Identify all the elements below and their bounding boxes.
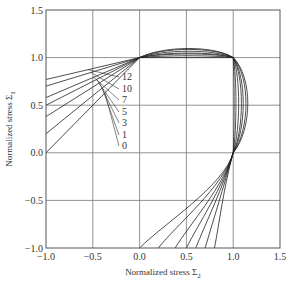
y-tick-label: 0.0 (31, 147, 44, 158)
x-tick-labels: −1.0−0.50.00.51.01.5 (37, 251, 286, 262)
yield-curve-12 (46, 48, 248, 248)
curve-labels: 121075310 (122, 71, 132, 151)
yield-curve-5 (46, 53, 241, 248)
curve-label: 10 (122, 83, 132, 94)
leader-line (105, 93, 119, 146)
curve-label: 7 (122, 94, 127, 105)
curve-label: 0 (122, 140, 127, 151)
x-tick-label: 1.5 (274, 251, 287, 262)
curve-label: 3 (122, 117, 127, 128)
yield-curves (46, 48, 248, 248)
yield-surface-chart: −1.0−0.50.00.51.01.5 −1.0−0.50.00.51.01.… (0, 0, 294, 292)
y-tick-label: 1.0 (31, 52, 44, 63)
x-tick-label: 1.0 (227, 251, 240, 262)
y-tick-label: 0.5 (31, 100, 44, 111)
y-axis-label: Normalized stress Σ1 (4, 91, 17, 167)
x-tick-label: 0.0 (133, 251, 146, 262)
x-axis-label: Normalized stress Σ2 (125, 267, 201, 280)
y-tick-label: −1.0 (25, 243, 43, 254)
curve-label: 1 (122, 129, 127, 140)
yield-curve-1 (46, 56, 236, 248)
curve-label: 12 (122, 71, 132, 82)
y-tick-label: 1.5 (31, 5, 44, 16)
leader-line (102, 88, 119, 135)
yield-curve-3 (46, 54, 239, 248)
curve-label: 5 (122, 106, 127, 117)
x-tick-label: −0.5 (84, 251, 102, 262)
yield-curve-10 (46, 49, 246, 248)
x-tick-label: 0.5 (180, 251, 193, 262)
y-tick-labels: −1.0−0.50.00.51.01.5 (25, 5, 43, 254)
y-tick-label: −0.5 (25, 195, 43, 206)
